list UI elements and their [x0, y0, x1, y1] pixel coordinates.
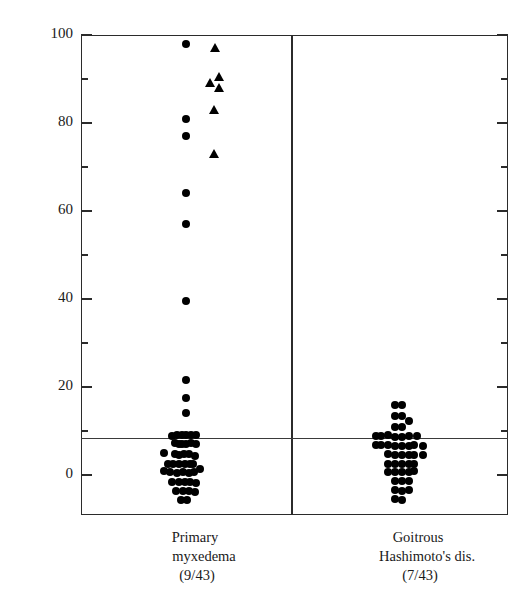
data-point-circle	[191, 452, 199, 460]
y-tick-10	[81, 430, 88, 431]
data-point-circle	[413, 432, 421, 440]
data-point-circle	[182, 40, 190, 48]
y-tick-label-60: 60	[27, 201, 73, 218]
data-point-circle	[410, 451, 418, 459]
data-point-circle	[182, 376, 190, 384]
data-point-circle	[182, 132, 190, 140]
data-point-circle	[405, 486, 413, 494]
data-point-triangle	[214, 83, 224, 92]
data-point-circle	[192, 440, 200, 448]
data-point-circle	[182, 394, 190, 402]
y-tick-label-20: 20	[27, 377, 73, 394]
data-point-circle	[398, 401, 406, 409]
y-tick-label-80: 80	[27, 113, 73, 130]
data-point-circle	[419, 442, 427, 450]
data-point-circle	[192, 431, 200, 439]
data-point-circle	[398, 496, 406, 504]
data-point-circle	[419, 451, 427, 459]
y-tick-100	[81, 34, 92, 35]
data-point-circle	[182, 409, 190, 417]
y-tick-20	[81, 386, 92, 387]
data-point-circle	[410, 467, 418, 475]
data-point-circle	[182, 220, 190, 228]
y-tick-30	[81, 342, 88, 343]
data-point-triangle	[214, 72, 224, 81]
y-tick-right-30	[501, 342, 508, 343]
caption-line-2: Hashimoto's dis.	[318, 547, 518, 566]
data-point-circle	[196, 465, 204, 473]
y-tick-50	[81, 254, 88, 255]
caption-line-3: (7/43)	[318, 566, 518, 585]
caption-line-3: (9/43)	[100, 566, 290, 585]
y-tick-right-80	[497, 122, 508, 123]
group-caption-primary-myxedema: Primary myxedema (9/43)	[100, 528, 290, 585]
data-point-triangle	[210, 43, 220, 52]
y-tick-right-10	[501, 430, 508, 431]
y-tick-label-0: 0	[27, 465, 73, 482]
data-point-circle	[192, 479, 200, 487]
y-tick-70	[81, 166, 88, 167]
y-tick-right-20	[497, 386, 508, 387]
data-point-circle	[410, 441, 418, 449]
y-tick-0	[81, 474, 92, 475]
data-point-triangle	[209, 149, 219, 158]
data-point-circle	[160, 449, 168, 457]
data-point-circle	[410, 460, 418, 468]
y-tick-right-90	[501, 78, 508, 79]
y-tick-label-40: 40	[27, 289, 73, 306]
y-tick-right-60	[497, 210, 508, 211]
panel-divider	[291, 35, 293, 515]
y-tick-right-50	[501, 254, 508, 255]
data-point-circle	[405, 477, 413, 485]
y-tick-right-0	[497, 474, 508, 475]
data-point-circle	[405, 417, 413, 425]
caption-line-1: Goitrous	[318, 528, 518, 547]
data-point-circle	[405, 432, 413, 440]
figure-root: Inhibition of 125I-TSH binding(%) 020406…	[0, 0, 529, 607]
data-point-circle	[182, 297, 190, 305]
y-tick-right-70	[501, 166, 508, 167]
data-point-circle	[398, 423, 406, 431]
data-point-circle	[183, 496, 191, 504]
y-tick-label-100: 100	[27, 25, 73, 42]
data-point-circle	[191, 488, 199, 496]
y-tick-right-40	[497, 298, 508, 299]
y-tick-right-100	[497, 34, 508, 35]
caption-line-2: myxedema	[100, 547, 290, 566]
plot-frame	[81, 35, 508, 515]
data-point-circle	[182, 189, 190, 197]
group-caption-goitrous-hashimoto: Goitrous Hashimoto's dis. (7/43)	[318, 528, 518, 585]
data-point-circle	[182, 115, 190, 123]
y-tick-40	[81, 298, 92, 299]
caption-line-1: Primary	[100, 528, 290, 547]
y-tick-60	[81, 210, 92, 211]
y-tick-90	[81, 78, 88, 79]
y-tick-80	[81, 122, 92, 123]
data-point-triangle	[209, 105, 219, 114]
